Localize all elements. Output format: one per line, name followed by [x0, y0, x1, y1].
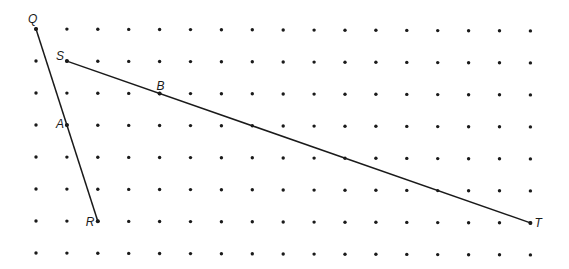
grid-dot — [189, 220, 192, 223]
grid-dot — [498, 29, 501, 32]
grid-dot — [189, 156, 192, 159]
grid-dot — [65, 27, 68, 30]
point-label-s: S — [56, 49, 64, 63]
grid-dot — [529, 189, 532, 192]
grid-dot — [220, 92, 223, 95]
grid-dots — [34, 27, 532, 256]
grid-dot — [343, 221, 346, 224]
grid-dot — [220, 60, 223, 63]
point-label-r: R — [86, 215, 95, 229]
grid-dot — [498, 253, 501, 256]
grid-dot — [282, 156, 285, 159]
grid-dot — [436, 253, 439, 256]
grid-dot — [96, 188, 99, 191]
grid-dot — [189, 252, 192, 255]
grid-dot — [343, 29, 346, 32]
grid-dot — [374, 253, 377, 256]
grid-dot — [374, 93, 377, 96]
grid-dot — [127, 156, 130, 159]
grid-dot — [436, 93, 439, 96]
grid-dot — [251, 252, 254, 255]
grid-dot — [96, 60, 99, 63]
grid-dot — [436, 61, 439, 64]
grid-dot — [158, 188, 161, 191]
grid-dot — [127, 252, 130, 255]
point-a — [65, 123, 69, 127]
grid-dot — [467, 157, 470, 160]
grid-dot — [529, 29, 532, 32]
point-r — [96, 219, 100, 223]
grid-dot — [65, 251, 68, 254]
grid-dot — [34, 187, 37, 190]
grid-dot — [189, 28, 192, 31]
grid-dot — [405, 221, 408, 224]
grid-dot — [529, 253, 532, 256]
grid-dot — [529, 61, 532, 64]
grid-dot — [405, 157, 408, 160]
grid-dot — [436, 125, 439, 128]
grid-dot — [34, 91, 37, 94]
grid-dot — [312, 124, 315, 127]
grid-dot — [96, 92, 99, 95]
grid-dot — [498, 93, 501, 96]
grid-dot — [467, 93, 470, 96]
grid-dot — [251, 220, 254, 223]
grid-dot — [343, 93, 346, 96]
grid-dot — [374, 125, 377, 128]
point-s — [65, 59, 69, 63]
point-label-q: Q — [28, 12, 37, 26]
grid-dot — [374, 29, 377, 32]
grid-dot — [312, 60, 315, 63]
grid-dot — [436, 221, 439, 224]
grid-dot — [405, 189, 408, 192]
grid-dot — [65, 219, 68, 222]
grid-dot — [251, 92, 254, 95]
point-label-t: T — [534, 216, 543, 230]
grid-dot — [467, 61, 470, 64]
grid-dot — [189, 60, 192, 63]
grid-dot — [498, 157, 501, 160]
grid-dot — [312, 252, 315, 255]
grid-dot — [65, 155, 68, 158]
grid-dot — [96, 156, 99, 159]
grid-dot — [127, 60, 130, 63]
grid-dot — [343, 253, 346, 256]
grid-dot — [405, 253, 408, 256]
grid-dot — [467, 29, 470, 32]
grid-dot — [158, 28, 161, 31]
grid-dot — [529, 93, 532, 96]
grid-dot — [96, 252, 99, 255]
point-q — [34, 27, 38, 31]
grid-dot — [158, 60, 161, 63]
grid-dot — [34, 219, 37, 222]
point-label-a: A — [55, 117, 64, 131]
grid-dot — [374, 61, 377, 64]
grid-dot — [158, 220, 161, 223]
grid-dot — [343, 61, 346, 64]
grid-dot — [282, 124, 285, 127]
grid-dot — [282, 220, 285, 223]
grid-dot — [127, 188, 130, 191]
grid-dot — [312, 92, 315, 95]
grid-dot — [34, 155, 37, 158]
grid-dot — [65, 91, 68, 94]
point-label-b: B — [157, 79, 165, 93]
grid-dot — [220, 28, 223, 31]
grid-dot — [312, 156, 315, 159]
grid-dot — [312, 188, 315, 191]
segment-st — [67, 61, 531, 223]
grid-dot — [189, 124, 192, 127]
grid-dot — [34, 59, 37, 62]
grid-dot — [374, 157, 377, 160]
grid-dot — [498, 221, 501, 224]
grid-dot — [467, 221, 470, 224]
grid-dot — [529, 157, 532, 160]
grid-dot — [127, 28, 130, 31]
grid-dot — [189, 188, 192, 191]
grid-dot — [65, 187, 68, 190]
grid-dot — [312, 220, 315, 223]
grid-dot — [498, 61, 501, 64]
grid-dot — [34, 123, 37, 126]
grid-dot — [127, 220, 130, 223]
grid-dot — [282, 252, 285, 255]
